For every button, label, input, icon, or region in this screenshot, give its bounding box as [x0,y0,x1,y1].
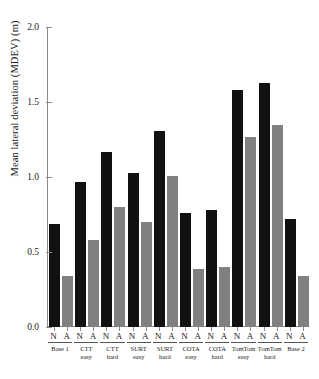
x-group-label: NACTTeasy [73,331,99,360]
group-bracket [48,342,72,343]
bar-n [259,83,270,328]
group-name-line1: TomTom [230,345,256,353]
na-row: NA [126,331,152,341]
y-tick-label: 2.0 [27,22,39,32]
bar-n [49,224,60,328]
condition-label: A [114,331,125,341]
na-row: NA [230,331,256,341]
condition-label: N [48,331,59,341]
condition-label: A [61,331,72,341]
group-bracket [153,342,177,343]
y-tick-label: 0.0 [27,322,39,332]
condition-label: N [100,331,111,341]
bar-group [257,27,283,327]
y-tick-label: 0.5 [27,247,39,257]
bar-a [245,137,256,328]
group-name-line2: hard [152,353,178,361]
bar-group [126,27,152,327]
condition-label: A [192,331,203,341]
x-group-label: NACTThard [99,331,125,360]
bar-n [75,182,86,328]
group-name-line1: COTA [178,345,204,353]
group-name-line1: CTT [99,345,125,353]
condition-label: N [153,331,164,341]
x-group-label: NATomTomhard [257,331,283,360]
y-axis-title: Mean lateral deviation (MDEV) (m) [9,0,20,199]
bar-a [272,125,283,328]
group-bracket [205,342,229,343]
bar-a [193,269,204,328]
na-row: NA [99,331,125,341]
bar-n [154,131,165,328]
bar-group [178,27,204,327]
group-name-line2: hard [257,353,283,361]
x-group-label: NACOTAhard [204,331,230,360]
x-group-label: NABase 2 [283,331,309,353]
group-name-line2: easy [73,353,99,361]
condition-label: A [271,331,282,341]
x-group-label: NACOTAeasy [178,331,204,360]
x-group-label: NASURTeasy [126,331,152,360]
bar-a [62,276,73,327]
bar-n [285,219,296,327]
group-bracket [100,342,124,343]
bar-n [128,173,139,328]
x-group-label: NASURThard [152,331,178,360]
group-name-line2: easy [230,353,256,361]
group-bracket [284,342,308,343]
na-row: NA [204,331,230,341]
group-name-line2: easy [126,353,152,361]
bar-a [114,207,125,327]
group-name-line1: SURT [126,345,152,353]
group-name-line2: hard [204,353,230,361]
bar-group [152,27,178,327]
na-row: NA [47,331,73,341]
group-name-line1: SURT [152,345,178,353]
bar-n [206,210,217,327]
bars-layer [47,27,309,327]
bar-n [180,213,191,327]
bar-group [283,27,309,327]
na-row: NA [257,331,283,341]
bar-n [232,90,243,327]
condition-label: A [218,331,229,341]
condition-label: N [284,331,295,341]
y-tick [46,252,52,253]
group-bracket [127,342,151,343]
condition-label: N [258,331,269,341]
x-group-label: NATomTomeasy [230,331,256,360]
y-tick-label: 1.0 [27,172,39,182]
bar-group [230,27,256,327]
bar-a [167,176,178,328]
na-row: NA [283,331,309,341]
group-bracket [231,342,255,343]
bar-a [141,222,152,327]
group-name-line2: easy [178,353,204,361]
condition-label: N [179,331,190,341]
group-name-line1: Base 2 [283,345,309,353]
y-tick [46,27,52,28]
bar-group [204,27,230,327]
condition-label: N [74,331,85,341]
na-row: NA [73,331,99,341]
group-name-line1: Base 1 [47,345,73,353]
bar-group [73,27,99,327]
group-bracket [258,342,282,343]
group-name-line2: hard [99,353,125,361]
group-name-line1: CTT [73,345,99,353]
y-tick [46,102,52,103]
condition-label: A [245,331,256,341]
na-row: NA [178,331,204,341]
condition-label: A [166,331,177,341]
bar-group [99,27,125,327]
plot-area: 0.00.51.01.52.0 [47,27,309,327]
condition-label: N [205,331,216,341]
bar-a [88,240,99,327]
condition-label: N [231,331,242,341]
group-name-line1: TomTom [257,345,283,353]
condition-label: A [87,331,98,341]
condition-label: N [127,331,138,341]
bar-chart: Mean lateral deviation (MDEV) (m) 0.00.5… [0,0,319,379]
bar-a [298,276,309,327]
condition-label: A [297,331,308,341]
